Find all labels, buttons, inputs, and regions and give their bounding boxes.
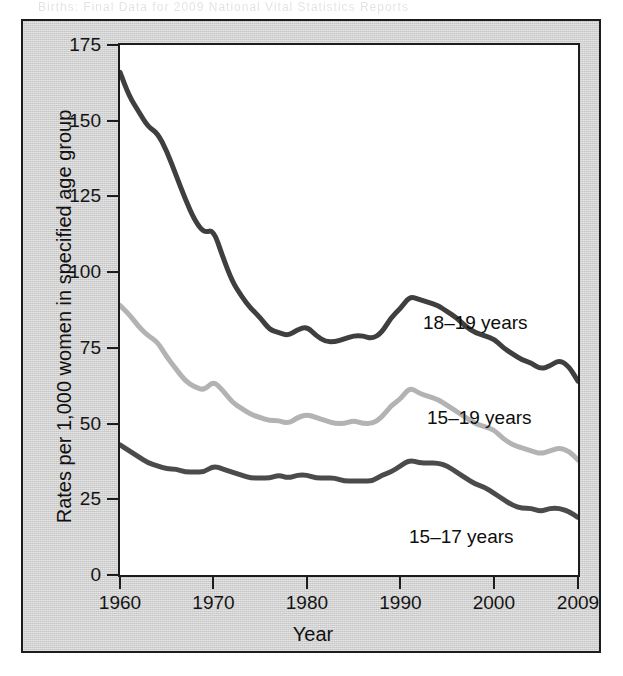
series-label-15-17: 15–17 years (409, 527, 514, 546)
y-axis-tick-label: 125 (55, 186, 101, 205)
plot-area (118, 43, 580, 577)
y-axis-tick-mark (107, 120, 118, 122)
y-axis-tick-label: 0 (55, 565, 101, 584)
y-axis-tick-label: 100 (55, 262, 101, 281)
x-axis-tick-label: 2009 (538, 593, 618, 612)
y-axis-tick-mark (107, 574, 118, 576)
y-axis-tick-label: 150 (55, 111, 101, 130)
y-axis-tick-label: 25 (55, 489, 101, 508)
x-axis-tick-mark (399, 577, 401, 589)
series-line-18-19 (120, 72, 578, 381)
y-axis-tick-label: 75 (55, 338, 101, 357)
x-axis-tick-label: 1970 (173, 593, 253, 612)
y-axis-tick-labels: 0255075100125150175 (49, 21, 101, 655)
x-axis-tick-label: 1980 (267, 593, 347, 612)
x-axis-tick-mark (212, 577, 214, 589)
series-line-15-17 (120, 445, 578, 518)
y-axis-tick-mark (107, 271, 118, 273)
y-axis-tick-mark (107, 44, 118, 46)
y-axis-tick-label: 175 (55, 35, 101, 54)
series-label-15-19: 15–19 years (427, 408, 532, 427)
y-axis-tick-mark (107, 195, 118, 197)
y-axis-tick-label: 50 (55, 414, 101, 433)
figure-panel: Rates per 1,000 women in specified age g… (21, 19, 601, 653)
chart-lines (120, 45, 578, 575)
x-axis-tick-mark (577, 577, 579, 589)
x-axis-tick-label: 2000 (454, 593, 534, 612)
series-label-18-19: 18–19 years (423, 313, 528, 332)
x-axis-title: Year (23, 623, 603, 646)
x-axis-tick-mark (119, 577, 121, 589)
x-axis-tick-mark (493, 577, 495, 589)
x-axis-tick-label: 1990 (360, 593, 440, 612)
y-axis-tick-mark (107, 498, 118, 500)
x-axis-tick-mark (306, 577, 308, 589)
scan-artifact-text: Births: Final Data for 2009 National Vit… (38, 0, 598, 14)
y-axis-tick-mark (107, 423, 118, 425)
x-axis-tick-label: 1960 (80, 593, 160, 612)
y-axis-tick-mark (107, 347, 118, 349)
